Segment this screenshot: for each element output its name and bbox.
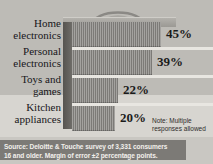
label-line-2: electronics [0,58,61,70]
source-line-1: Source: Deloitte & Touche survey of 3,33… [4,142,183,151]
category-label-toys-and-games: Toys and games [0,74,61,97]
bar-home-electronics [72,22,161,47]
bar-kitchen-appliances [72,106,115,131]
label-line-1: Personal [0,46,61,58]
category-label-personal-electronics: Personal electronics [0,46,61,69]
bar-group: 45% 39% 22% 20% [72,22,213,132]
label-line-1: Kitchen [0,102,61,114]
label-line-1: Toys and [0,74,61,86]
label-line-2: electronics [0,30,61,42]
chart-note: Note: Multiple responses allowed [152,117,212,133]
bar-value-kitchen-appliances: 20% [120,110,146,126]
label-line-1: Home [0,18,61,30]
source-caption: Source: Deloitte & Touche survey of 3,33… [0,140,186,160]
bar-value-toys-and-games: 22% [123,82,149,98]
bar-value-personal-electronics: 39% [157,54,183,70]
note-text: Note: Multiple responses allowed [152,117,206,132]
infographic-bar-chart: Home electronics Personal electronics To… [0,0,213,164]
label-line-2: appliances [0,114,61,126]
bar-toys-and-games [72,78,118,103]
label-line-2: games [0,86,61,98]
category-label-kitchen-appliances: Kitchen appliances [0,102,61,125]
bag-left-side-panel [63,22,72,129]
bar-personal-electronics [72,50,152,75]
cut-off-headline [0,0,213,1]
category-label-home-electronics: Home electronics [0,18,61,41]
source-line-2: 16 and older. Margin of error ±2 percent… [4,151,183,160]
bar-value-home-electronics: 45% [166,26,192,42]
